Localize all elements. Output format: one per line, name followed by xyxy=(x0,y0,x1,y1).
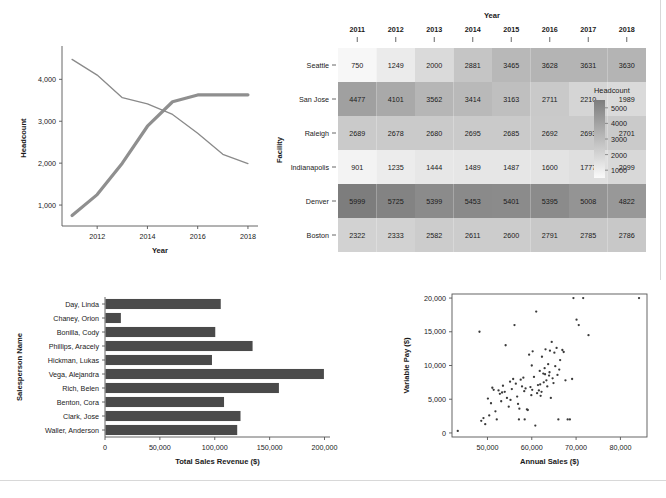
scatter-point xyxy=(553,352,555,354)
scatter-point xyxy=(563,351,565,353)
heatmap-cell-value: 2600 xyxy=(503,231,519,240)
headcount-line-chart-panel: 1,0002,0003,0004,0002012201420162018Year… xyxy=(0,28,270,273)
scatter-x-tick-label: 50,000 xyxy=(476,443,498,452)
bar-chart-x-tick-label: 50,000 xyxy=(149,443,171,452)
heatmap-cell-value: 1487 xyxy=(503,163,519,172)
heatmap-cell-value: 3414 xyxy=(465,95,481,104)
heatmap-cell-value: 4477 xyxy=(349,95,365,104)
scatter-point xyxy=(559,359,561,361)
line-chart-y-tick-label: 3,000 xyxy=(38,117,56,126)
scatter-point xyxy=(549,350,551,352)
heatmap-col-label: 2011 xyxy=(349,25,365,34)
scatter-point xyxy=(638,297,640,299)
heatmap-cell-value: 5401 xyxy=(503,197,519,206)
scatter-point xyxy=(530,394,532,396)
heatmap-cell-value: 2791 xyxy=(542,231,558,240)
scatter-point xyxy=(536,392,538,394)
scatter-point xyxy=(524,418,526,420)
scatter-point xyxy=(500,400,502,402)
variable-pay-scatter-chart: 05,00010,00015,00020,00050,00060,00070,0… xyxy=(385,285,666,490)
scatter-point xyxy=(540,391,542,393)
heatmap-y-axis-title: Facility xyxy=(275,136,284,163)
bar-chart-bar xyxy=(106,411,241,421)
scatter-point xyxy=(544,348,546,350)
line-chart-y-axis-title: Headcount xyxy=(19,118,28,158)
scatter-point xyxy=(564,379,566,381)
bar-chart-bar xyxy=(106,299,221,309)
scatter-point xyxy=(508,405,510,407)
facility-headcount-heatmap-panel: YearFacility2011201220132014201520162017… xyxy=(272,4,666,272)
heatmap-col-label: 2017 xyxy=(580,25,596,34)
scatter-y-tick-label: 5,000 xyxy=(428,395,446,404)
scatter-point xyxy=(513,324,515,326)
scatter-x-tick-label: 80,000 xyxy=(609,443,631,452)
heatmap-cell-value: 5725 xyxy=(388,197,404,206)
scatter-point xyxy=(548,371,550,373)
heatmap-cell-value: 2693 xyxy=(580,129,596,138)
scatter-point xyxy=(509,399,511,401)
bar-chart-bar xyxy=(106,355,212,365)
scatter-x-tick-label: 70,000 xyxy=(565,443,587,452)
heatmap-cell-value: 1235 xyxy=(388,163,404,172)
line-chart-y-tick-label: 1,000 xyxy=(38,201,56,210)
heatmap-col-label: 2016 xyxy=(542,25,558,34)
scatter-point xyxy=(546,385,548,387)
scatter-point xyxy=(575,318,577,320)
heatmap-col-label: 2014 xyxy=(465,25,481,34)
scatter-y-tick-label: 15,000 xyxy=(424,327,446,336)
heatmap-cell-value: 5395 xyxy=(542,197,558,206)
heatmap-row-label: Denver xyxy=(306,197,330,206)
bar-chart-x-tick-label: 200,000 xyxy=(312,443,338,452)
heatmap-legend-tick-label: 3000 xyxy=(611,135,627,144)
heatmap-row-label: Raleigh xyxy=(305,129,329,138)
scatter-y-axis-title: Variable Pay ($) xyxy=(402,337,411,394)
scatter-point xyxy=(482,417,484,419)
heatmap-cell-value: 3631 xyxy=(580,61,596,70)
scatter-point xyxy=(528,354,530,356)
facility-headcount-heatmap: YearFacility2011201220132014201520162017… xyxy=(272,4,666,272)
scatter-point xyxy=(518,418,520,420)
scatter-point xyxy=(544,373,546,375)
scatter-point xyxy=(518,408,520,410)
heatmap-col-label: 2018 xyxy=(619,25,635,34)
scatter-point xyxy=(534,424,536,426)
scatter-point xyxy=(571,378,573,380)
scatter-point xyxy=(524,387,526,389)
scatter-point xyxy=(550,397,552,399)
heatmap-cell-value: 2322 xyxy=(349,231,365,240)
heatmap-legend-tick-label: 1000 xyxy=(611,166,627,175)
scatter-point xyxy=(509,381,511,383)
scatter-point xyxy=(578,324,580,326)
line-chart-x-tick-label: 2014 xyxy=(139,232,155,241)
bar-chart-bar xyxy=(106,313,121,323)
scatter-point xyxy=(491,387,493,389)
bar-chart-bar xyxy=(106,397,225,407)
line-series-seattle xyxy=(72,95,248,216)
line-chart-x-axis-title: Year xyxy=(152,246,168,255)
heatmap-col-label: 2013 xyxy=(426,25,442,34)
scatter-point xyxy=(556,374,558,376)
scatter-point xyxy=(539,370,541,372)
bar-chart-bar xyxy=(106,341,253,351)
heatmap-cell-value: 3562 xyxy=(426,95,442,104)
heatmap-cell-value: 1777 xyxy=(580,163,596,172)
scatter-y-tick-label: 10,000 xyxy=(424,361,446,370)
heatmap-cell-value: 2582 xyxy=(426,231,442,240)
scatter-point xyxy=(535,310,537,312)
heatmap-row-label: Indianapolis xyxy=(291,163,330,172)
scatter-point xyxy=(539,383,541,385)
scatter-point xyxy=(533,376,535,378)
bar-chart-bar xyxy=(106,369,324,379)
scatter-point xyxy=(572,297,574,299)
line-chart-x-tick-label: 2012 xyxy=(89,232,105,241)
line-series-san-jose xyxy=(72,59,248,163)
scatter-y-tick-label: 20,000 xyxy=(424,294,446,303)
bar-chart-category-label: Day, Linda xyxy=(65,300,99,309)
scatter-point xyxy=(511,388,513,390)
bar-chart-bar xyxy=(106,327,216,337)
heatmap-legend-tick-label: 2000 xyxy=(611,151,627,160)
scatter-plot-frame xyxy=(452,294,647,437)
scatter-point xyxy=(484,423,486,425)
heatmap-cell-value: 5453 xyxy=(465,197,481,206)
scatter-point xyxy=(569,418,571,420)
